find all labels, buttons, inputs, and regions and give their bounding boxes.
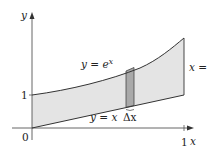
region-diagram: y x 0 1 1 y = ex x = 1 y = x Δx [0, 0, 208, 155]
x-axis-arrow-icon [187, 126, 194, 131]
x-tick-label: 1 [181, 136, 188, 148]
y-tick-label: 1 [21, 89, 28, 101]
strip-label: Δx [123, 111, 137, 123]
y-axis-label: y [20, 9, 28, 21]
lower-line-label: y = x [89, 111, 117, 123]
boundary-label: x = 1 [189, 61, 208, 73]
origin-label: 0 [22, 131, 29, 143]
y-axis-arrow-icon [30, 12, 35, 19]
approximating-strip [126, 68, 134, 108]
upper-curve-label: y = ex [80, 57, 114, 70]
x-axis-label: x [190, 135, 196, 147]
upper-curve-label-base: y = e [80, 58, 109, 70]
upper-curve-label-exponent: x [109, 57, 114, 66]
